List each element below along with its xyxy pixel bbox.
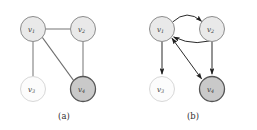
node-v4-subscript: 4 — [210, 88, 214, 94]
node-v2[interactable]: v2 — [71, 17, 96, 42]
panel-a-caption: (a) — [0, 111, 128, 121]
edge-v1-v4-bidirectional — [172, 38, 202, 79]
panel-a-undirected-graph: v1 v2 v3 v4 — [0, 0, 128, 130]
figure-root: v1 v2 v3 v4 — [0, 0, 257, 130]
node-v3[interactable]: v3 — [21, 77, 46, 102]
node-v3-subscript: 3 — [161, 88, 164, 94]
node-v3[interactable]: v3 — [150, 77, 175, 102]
node-v1-subscript: 1 — [32, 28, 35, 34]
graph-a-canvas: v1 v2 v3 v4 — [0, 0, 128, 110]
node-v1[interactable]: v1 — [21, 17, 46, 42]
node-v3-subscript: 3 — [32, 88, 35, 94]
node-v4[interactable]: v4 — [200, 77, 225, 102]
panel-b-caption: (b) — [129, 111, 257, 121]
graph-b-canvas: v1 v2 v3 v4 — [129, 0, 257, 110]
node-v2-subscript: 2 — [210, 28, 214, 34]
node-v4[interactable]: v4 — [71, 77, 96, 102]
node-v1[interactable]: v1 — [150, 17, 175, 42]
node-v4-subscript: 4 — [81, 88, 85, 94]
edge-v1-to-v2-curve-up — [173, 15, 202, 22]
node-v2-subscript: 2 — [81, 28, 85, 34]
panel-b-directed-graph: v1 v2 v3 v4 — [129, 0, 257, 130]
edge-v1-v4 — [42, 37, 73, 80]
node-v2[interactable]: v2 — [200, 17, 225, 42]
node-v1-subscript: 1 — [161, 28, 164, 34]
